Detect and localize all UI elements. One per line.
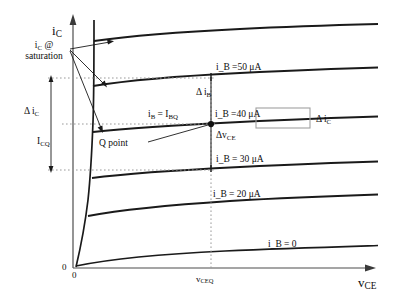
saturation-label-line2: saturation: [16, 51, 72, 62]
curve-ib-0: [76, 246, 378, 267]
saturation-line1-tail: @: [42, 40, 53, 50]
x-tick-label-vceq: vCEQ: [196, 275, 213, 284]
delta-vce-label: ΔvCE: [216, 131, 236, 141]
ib-ibq-sub: B: [151, 113, 156, 120]
x-axis-label-sub: CE: [365, 281, 377, 291]
ib-ibq-eq: = I: [155, 109, 168, 119]
x-axis-label: vCE: [358, 276, 376, 289]
saturation-label-line1: iC @: [16, 40, 72, 51]
curve-ib-60ua: [94, 24, 378, 41]
saturation-arrow-to-60ua: [70, 42, 110, 49]
y-axis-label-sub: C: [56, 29, 62, 39]
saturation-leader-arrows: [70, 39, 114, 133]
y-axis-arrowhead: [70, 14, 77, 25]
delta-ib-label: Δ iB: [196, 88, 211, 98]
y-axis-label: iC: [52, 24, 62, 37]
curve-label-ib-50ua: i_B =50 μA: [216, 63, 261, 73]
x-tick-vceq-main: v: [196, 274, 201, 284]
x-axis-arrowhead: [365, 265, 376, 272]
saturation-line1-sub: C: [37, 44, 42, 51]
delta-ic-box: [256, 108, 310, 128]
delta-ic-label: Δ iC: [24, 107, 39, 117]
saturation-arrow-to-50ua: [70, 50, 104, 84]
ib-ibq-eq-sub: BQ: [168, 113, 178, 120]
icq-label-sub: CQ: [40, 140, 50, 147]
curve-label-ib-ibq: iB = IBQ: [148, 110, 178, 120]
delta-vce-label-sub: CE: [227, 134, 236, 141]
q-point-marker: [208, 121, 214, 127]
curve-label-ib-40ua: i_B =40 μA: [215, 110, 260, 120]
delta-ic-measure: [49, 75, 54, 173]
q-point-label: Q point: [99, 139, 128, 149]
curve-label-ib-20ua: i_B = 20 μA: [213, 190, 261, 200]
delta-ic-label-sub: C: [35, 110, 40, 117]
origin-label-y: 0: [62, 263, 67, 272]
x-tick-vceq-sub: CEQ: [201, 277, 214, 284]
delta-vce-label-main: Δv: [216, 130, 227, 140]
saturation-arrow-to-40ua: [70, 51, 101, 128]
delta-ic-label-main: Δ i: [24, 106, 35, 116]
icq-label: ICQ: [37, 137, 50, 147]
saturation-label: iC @ saturation: [16, 40, 72, 62]
saturation-locus-curve: [76, 20, 94, 267]
x-axis-label-main: v: [358, 275, 365, 290]
delta-ic-box-label-sub: C: [327, 118, 332, 125]
delta-ib-label-main: Δ i: [196, 87, 207, 97]
origin-label-x: 0: [72, 271, 77, 280]
transistor-characteristics-figure: iC vCE 0 0 vCEQ iC @ saturation Δ iC ICQ…: [0, 0, 400, 303]
curve-label-ib-0: i_B = 0: [268, 240, 297, 250]
delta-ic-box-label-main: Δ i: [316, 114, 327, 124]
delta-ib-label-sub: B: [207, 91, 212, 98]
delta-ic-box-label: Δ iC: [316, 115, 331, 125]
saturation-arrowhead-60ua: [107, 39, 114, 44]
curve-label-ib-30ua: i_B = 30 μA: [216, 155, 264, 165]
